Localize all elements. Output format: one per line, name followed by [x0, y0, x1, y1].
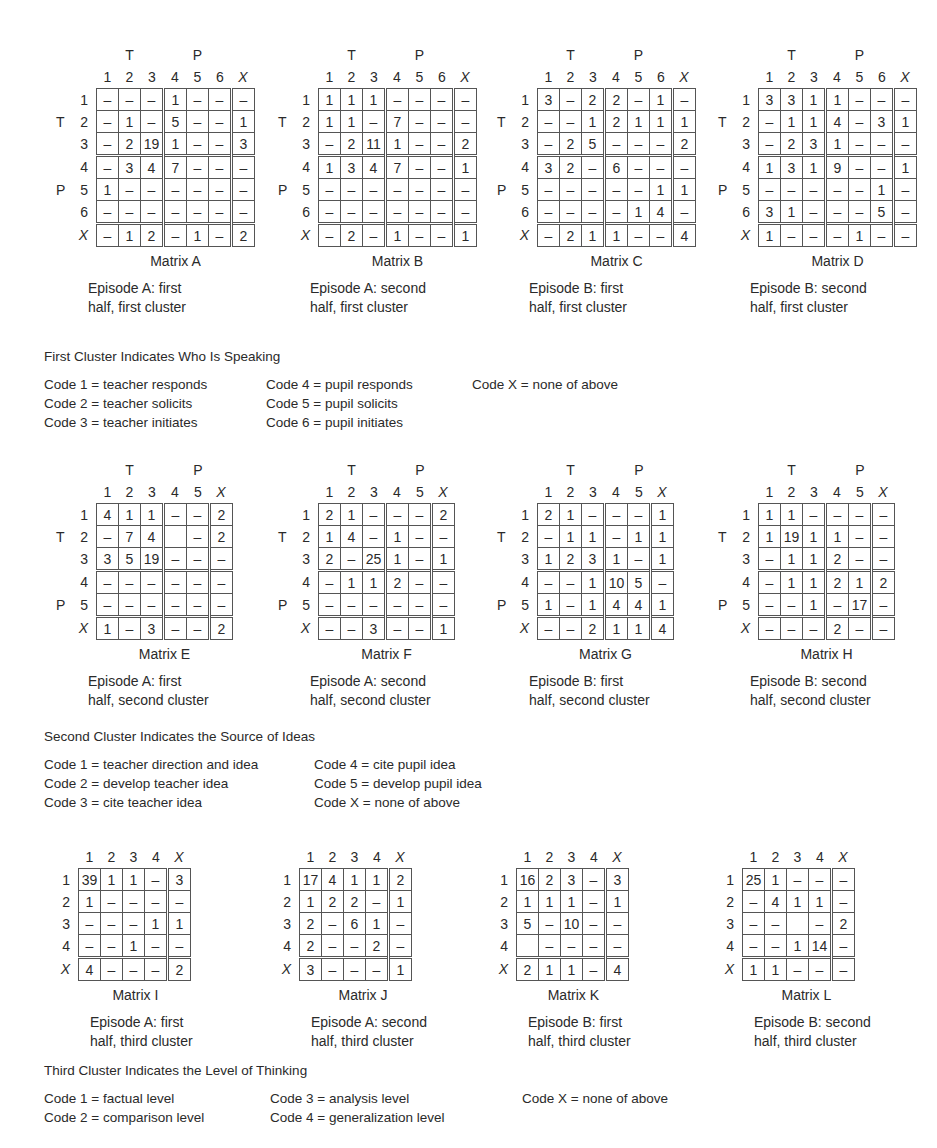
column-header: 5: [409, 66, 431, 89]
legend-code-x: Code X = none of above: [522, 1089, 668, 1108]
row-header: 6: [732, 201, 759, 224]
row-header: 5: [292, 179, 319, 201]
matrix-cell: –: [872, 504, 895, 526]
matrix-cell: 1: [651, 548, 674, 571]
column-header: 4: [366, 846, 389, 869]
matrix-cell: –: [582, 201, 605, 224]
column-header: 4: [145, 846, 168, 869]
column-header: 1: [538, 481, 560, 504]
column-header: 3: [123, 846, 145, 869]
matrix-cell: 1: [341, 571, 363, 594]
matrix-row: 1–––1–––: [56, 89, 255, 111]
matrix-cell: 2: [582, 89, 605, 111]
matrix-cell: –: [123, 891, 145, 913]
matrix-cell: –: [431, 89, 454, 111]
matrix-cell: 1: [759, 526, 781, 548]
row-header: 3: [732, 548, 759, 571]
matrix-cell: 4: [651, 617, 674, 640]
matrix-title: Matrix K: [490, 987, 631, 1003]
matrix-cell: –: [871, 89, 894, 111]
column-header-row: 123456X: [718, 66, 917, 89]
matrix-row: 4–11212: [718, 571, 895, 594]
column-header: 4: [826, 66, 849, 89]
matrix-cell: 1: [389, 958, 412, 981]
matrix-cell: 1: [363, 571, 386, 594]
row-header: X: [52, 958, 79, 981]
column-header: 1: [79, 846, 101, 869]
column-header: 3: [787, 846, 809, 869]
teacher-group-label: T: [781, 44, 803, 66]
teacher-group-label: T: [560, 459, 582, 481]
matrix-cell: 2: [119, 133, 141, 156]
matrix-row: 6–––––––: [278, 201, 477, 224]
row-header: 4: [511, 156, 538, 179]
matrix-cell: 1: [319, 111, 341, 133]
matrix-cell: –: [849, 201, 871, 224]
matrix-cell: –: [826, 201, 849, 224]
matrix-cell: –: [232, 201, 255, 224]
matrix-cell: 1: [781, 504, 803, 526]
matrix-row: 4––––: [490, 935, 629, 958]
matrix-row: 13311–––: [718, 89, 917, 111]
legend-heading: Third Cluster Indicates the Level of Thi…: [44, 1061, 668, 1080]
matrix-cell: –: [628, 504, 651, 526]
matrix-cell: –: [409, 548, 432, 571]
matrix-cell: 1: [803, 594, 826, 617]
matrix-cell: 3: [97, 548, 119, 571]
matrix-cell: –: [765, 913, 787, 935]
column-header: 5: [849, 481, 872, 504]
matrix-title: Matrix E: [56, 646, 233, 662]
column-header: 3: [582, 66, 605, 89]
matrix-cell: –: [187, 504, 210, 526]
matrix-cell: 1: [605, 617, 628, 640]
first-cluster-legend: First Cluster Indicates Who Is Speaking …: [44, 347, 618, 432]
matrix-cell: –: [651, 571, 674, 594]
pupil-group-label: P: [278, 594, 292, 617]
matrix-cell: –: [187, 617, 210, 640]
matrix-row: 35–10––: [490, 913, 629, 935]
matrix-row: X–211––4: [497, 224, 696, 247]
pupil-group-label: P: [409, 459, 432, 481]
matrix-b-block: TP123456X1111––––T211–7–––3–2111––241347…: [278, 44, 477, 317]
matrix-row: 111––––: [718, 504, 895, 526]
matrix-row: T2–114–31: [718, 111, 917, 133]
matrix-cell: 1: [538, 548, 560, 571]
matrix-cell: –: [849, 504, 872, 526]
matrix-cell: –: [187, 526, 210, 548]
row-header: 2: [273, 891, 300, 913]
matrix-row: T214–1––: [278, 526, 455, 548]
column-header: 6: [209, 66, 232, 89]
column-header: 1: [759, 66, 781, 89]
matrix-cell: –: [187, 156, 209, 179]
matrix-table: TP123456X13311–––T2–114–313–231–––41319–…: [718, 44, 917, 247]
column-header: X: [832, 846, 855, 869]
matrix-table: 1234X11623–32111–135–10––4––––X211–4: [490, 846, 629, 981]
matrix-cell: –: [409, 594, 432, 617]
matrix-cell: –: [432, 594, 455, 617]
matrix-cell: 2: [386, 571, 409, 594]
column-header: X: [454, 66, 477, 89]
caption-line-1: Episode A: first: [90, 1013, 193, 1032]
matrix-cell: 1: [101, 869, 123, 891]
matrix-cell: 1: [341, 504, 363, 526]
matrix-cell: –: [628, 548, 651, 571]
matrix-row: T211–7–––: [278, 111, 477, 133]
matrix-a-block: TP123456X1–––1–––T2–1–5––13–2191––34–347…: [56, 44, 255, 317]
legend-code-3: Code 3 = cite teacher idea: [44, 793, 314, 812]
matrix-cell: 2: [341, 133, 363, 156]
column-header: 3: [141, 66, 164, 89]
matrix-cell: –: [759, 594, 781, 617]
matrix-cell: 39: [79, 869, 101, 891]
legend-heading: First Cluster Indicates Who Is Speaking: [44, 347, 618, 366]
matrix-cell: 5: [517, 913, 539, 935]
matrix-cell: –: [209, 89, 232, 111]
matrix-row: 3–231–––: [718, 133, 917, 156]
matrix-cell: –: [363, 201, 386, 224]
matrix-cell: –: [582, 179, 605, 201]
legend-code-3: Code 3 = analysis level: [270, 1089, 522, 1108]
matrix-row: 4–347–––: [56, 156, 255, 179]
matrix-cell: 1: [386, 224, 409, 247]
matrix-cell: –: [164, 571, 187, 594]
matrix-cell: –: [209, 133, 232, 156]
row-header: 2: [292, 526, 319, 548]
